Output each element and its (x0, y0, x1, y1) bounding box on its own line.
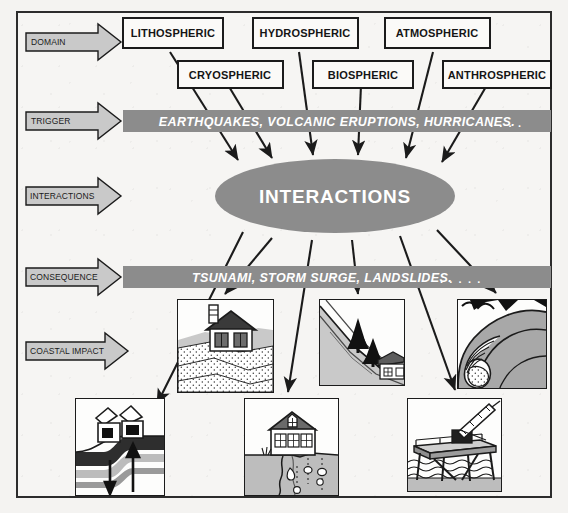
domain-label-biospheric: BIOSPHERIC (328, 69, 398, 81)
diagram-canvas: LITHOSPHERIC HYDROSPHERIC ATMOSPHERIC CR… (0, 0, 568, 513)
domain-label-lithospheric: LITHOSPHERIC (131, 27, 215, 39)
domain-box-anthrospheric[interactable]: ANTHROSPHERIC (443, 61, 551, 88)
consequence-band-ellipsis: . . . . . (440, 273, 482, 285)
impact-breaking-wave[interactable] (458, 300, 546, 388)
diagram-page: LITHOSPHERIC HYDROSPHERIC ATMOSPHERIC CR… (0, 0, 568, 513)
domain-box-atmospheric[interactable]: ATMOSPHERIC (385, 18, 490, 48)
domain-box-biospheric[interactable]: BIOSPHERIC (313, 61, 413, 88)
interactions-hub[interactable]: INTERACTIONS (215, 159, 455, 233)
row-tag-label-interactions: INTERACTIONS (30, 191, 95, 201)
domain-label-cryospheric: CRYOSPHERIC (189, 69, 271, 81)
row-tags: DOMAIN TRIGGER INTERACTIONS CONSEQUENCE … (26, 24, 128, 369)
domain-boxes: LITHOSPHERIC HYDROSPHERIC ATMOSPHERIC CR… (123, 18, 551, 88)
consequence-band-text: TSUNAMI, STORM SURGE, LANDSLIDES. (192, 271, 452, 285)
row-tag-label-coastal-impact: COASTAL IMPACT (30, 346, 104, 356)
domain-box-hydrospheric[interactable]: HYDROSPHERIC (253, 18, 358, 48)
row-tag-domain[interactable]: DOMAIN (26, 24, 121, 60)
impact-bluff-erosion-house[interactable] (178, 300, 273, 392)
domain-label-anthrospheric: ANTHROSPHERIC (448, 69, 547, 81)
row-tag-consequence[interactable]: CONSEQUENCE (26, 259, 121, 295)
impact-landslide-trees-house[interactable] (320, 300, 404, 385)
interactions-hub-label: INTERACTIONS (259, 186, 411, 207)
impact-pier-crane[interactable] (408, 399, 501, 491)
trigger-band-text: EARTHQUAKES, VOLCANIC ERUPTIONS, HURRICA… (159, 115, 515, 129)
row-tag-label-trigger: TRIGGER (31, 116, 70, 126)
trigger-band-ellipsis: . . . . (490, 117, 523, 129)
domain-label-hydrospheric: HYDROSPHERIC (259, 27, 350, 39)
row-tag-trigger[interactable]: TRIGGER (26, 103, 121, 139)
row-tag-label-consequence: CONSEQUENCE (30, 272, 98, 282)
domain-box-lithospheric[interactable]: LITHOSPHERIC (123, 18, 223, 48)
domain-label-atmospheric: ATMOSPHERIC (396, 27, 479, 39)
domain-box-cryospheric[interactable]: CRYOSPHERIC (178, 61, 283, 88)
row-tag-coastal-impact[interactable]: COASTAL IMPACT (26, 333, 128, 369)
row-tag-interactions[interactable]: INTERACTIONS (26, 178, 121, 214)
impact-fault-rupture-house[interactable] (76, 399, 164, 495)
row-tag-label-domain: DOMAIN (31, 37, 66, 47)
trigger-band: EARTHQUAKES, VOLCANIC ERUPTIONS, HURRICA… (123, 110, 551, 132)
impact-cliff-collapse-house[interactable] (245, 399, 338, 495)
consequence-band: TSUNAMI, STORM SURGE, LANDSLIDES. . . . … (123, 266, 551, 288)
